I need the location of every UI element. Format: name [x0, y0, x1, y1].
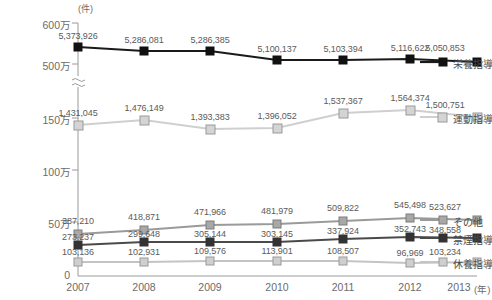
point-label-nonsmoking-2007: 273,237 [43, 232, 113, 242]
x-tick-label-2008: 2008 [114, 281, 174, 293]
x-tick-label-2010: 2010 [247, 281, 307, 293]
x-tick-label-2011: 2011 [313, 281, 373, 293]
point-label-rest-2010: 113,901 [242, 246, 312, 256]
point-label-other-2008: 418,871 [109, 212, 179, 222]
x-tick-label-2009: 2009 [180, 281, 240, 293]
point-label-rest-2007: 103,136 [43, 247, 113, 257]
point-label-nonsmoking-2008: 299,648 [109, 229, 179, 239]
legend-item-rest[interactable]: 休養指導 [453, 256, 492, 271]
point-label-rest-2009: 109,576 [175, 246, 245, 256]
point-label-rest-2011: 108,507 [308, 246, 378, 256]
point-label-other-2013: 523,627 [410, 202, 480, 212]
point-label-nonsmoking-2010: 303,145 [242, 229, 312, 239]
point-label-other-2007: 387,210 [43, 216, 113, 226]
legend-item-nutrition[interactable]: 栄養指導 [453, 56, 492, 71]
point-label-other-2009: 471,966 [175, 207, 245, 217]
point-label-exercise-2013: 1,500,751 [405, 100, 485, 110]
line-chart: (件) 600万 500万 150万 100万 50万 0 [0, 0, 492, 300]
legend-item-exercise[interactable]: 運動指導 [453, 111, 492, 126]
legend-item-other[interactable]: その他 [453, 214, 483, 229]
point-label-nutrition-2013: 5,050,853 [405, 43, 485, 53]
legend-item-nonsmoking[interactable]: 禁煙指導 [453, 232, 492, 247]
point-label-rest-2008: 102,931 [109, 247, 179, 257]
axis-break-icon [72, 76, 85, 87]
point-label-other-2011: 509,822 [308, 203, 378, 213]
x-axis-unit-label: (年) [474, 282, 490, 296]
x-tick-label-2007: 2007 [48, 281, 108, 293]
point-label-nonsmoking-2011: 337,924 [308, 226, 378, 236]
point-label-exercise-2010: 1,396,052 [237, 111, 317, 121]
point-label-other-2010: 481,979 [242, 206, 312, 216]
x-tick-label-2012: 2012 [380, 281, 440, 293]
x-tick-label-2013: 2013 [440, 281, 478, 293]
point-label-nonsmoking-2009: 305,144 [175, 229, 245, 239]
